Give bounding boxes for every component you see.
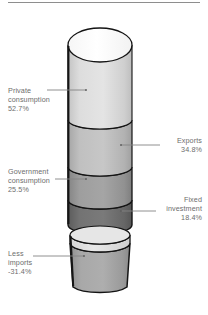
- leader-dot-fixed: [120, 210, 122, 212]
- callout-private-line2: consumption: [8, 95, 50, 104]
- callout-government-value: 25.5%: [8, 185, 50, 194]
- callout-label-less-imports: Less imports -31.4%: [8, 249, 32, 277]
- callout-fixed-line2: investment: [166, 204, 202, 213]
- callout-label-private-consumption: Private consumption 52.7%: [8, 86, 50, 114]
- cylinder-top-face: [68, 28, 132, 62]
- callout-exports-line1: Exports: [177, 136, 202, 145]
- callout-government-line2: consumption: [8, 176, 50, 185]
- callout-less-imports-value: -31.4%: [8, 267, 32, 276]
- callout-label-exports: Exports 34.8%: [177, 136, 202, 154]
- callout-private-line1: Private: [8, 86, 50, 95]
- segment-less-imports: [70, 226, 130, 292]
- leader-dot-private: [85, 89, 87, 91]
- callout-less-imports-line2: imports: [8, 258, 32, 267]
- callout-label-fixed-investment: Fixed investment 18.4%: [166, 195, 202, 223]
- callout-label-government-consumption: Government consumption 25.5%: [8, 167, 50, 195]
- callout-exports-value: 34.8%: [177, 145, 202, 154]
- leader-dot-less-imports: [83, 255, 85, 257]
- leader-dot-government: [85, 178, 87, 180]
- callout-less-imports-line1: Less: [8, 249, 32, 258]
- callout-fixed-value: 18.4%: [166, 213, 202, 222]
- callout-government-line1: Government: [8, 167, 50, 176]
- callout-fixed-line1: Fixed: [166, 195, 202, 204]
- callout-private-value: 52.7%: [8, 104, 50, 113]
- leader-dot-exports: [120, 144, 122, 146]
- chart-figure: Private consumption 52.7% Government con…: [0, 0, 208, 315]
